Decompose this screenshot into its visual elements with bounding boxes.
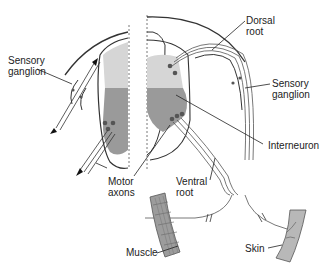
label-line: ganglion (272, 89, 310, 100)
label-line: Dorsal (246, 15, 275, 26)
label-line: axons (108, 187, 135, 198)
left-spinal-half (50, 25, 129, 176)
label-line: Ventral (176, 176, 207, 187)
label-ventral-root: Ventral root (176, 176, 207, 198)
label-line: Sensory (272, 78, 310, 89)
label-sensory-ganglion-left: Sensory ganglion (8, 55, 46, 77)
label-line: Motor (108, 176, 135, 187)
label-line: root (246, 26, 275, 37)
label-dorsal-root: Dorsal root (246, 15, 275, 37)
label-line: Sensory (8, 55, 46, 66)
label-line: root (176, 187, 207, 198)
label-skin: Skin (245, 243, 264, 254)
label-interneuron: Interneuron (268, 140, 319, 151)
label-muscle: Muscle (126, 247, 158, 258)
label-line: Skin (245, 243, 264, 254)
label-line: Muscle (126, 247, 158, 258)
label-motor-axons: Motor axons (108, 176, 135, 198)
skin-tissue (276, 210, 306, 262)
label-sensory-ganglion-right: Sensory ganglion (272, 78, 310, 100)
label-line: ganglion (8, 66, 46, 77)
right-spinal-half (145, 15, 290, 230)
label-line: Interneuron (268, 140, 319, 151)
spinal-cord-diagram (0, 0, 326, 265)
